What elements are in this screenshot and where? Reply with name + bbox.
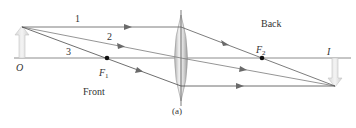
ray-1-label: 1 (75, 13, 80, 24)
ray-diagram: 1 2 3 O I F1 F2 Back Front (a) (0, 0, 356, 128)
ray-1-arrowhead-front (124, 24, 132, 30)
ray-3-arrowhead-front (135, 67, 143, 73)
back-region-label: Back (261, 18, 282, 29)
focal-point-f1 (105, 56, 110, 61)
ray-3-label: 3 (66, 46, 71, 57)
object-arrow-icon (15, 26, 29, 58)
ray-2-arrowhead-front (117, 43, 125, 49)
image-arrow-icon (328, 58, 342, 87)
ray-2-arrowhead-back (239, 66, 247, 72)
image-label: I (326, 46, 331, 57)
focal-label-f2: F2 (255, 44, 266, 57)
object-label: O (16, 62, 23, 73)
front-region-label: Front (83, 86, 105, 97)
figure-caption: (a) (172, 106, 182, 116)
ray-2-label: 2 (107, 31, 112, 42)
ray-3-arrowhead-back (236, 83, 244, 89)
ray-1-arrowhead-back (221, 40, 229, 46)
focal-label-f1: F1 (98, 67, 109, 80)
